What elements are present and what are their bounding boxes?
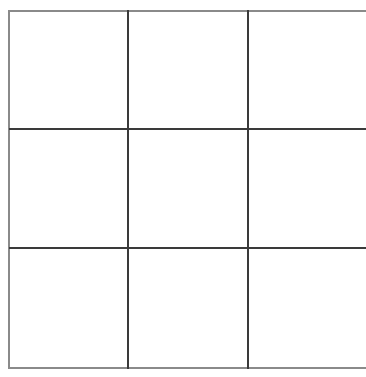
- cell-r0-c0[interactable]: [10, 12, 127, 128]
- cell-r2-c1[interactable]: [129, 249, 247, 367]
- cell-r2-c2[interactable]: [249, 249, 366, 367]
- board-bottom-border: [9, 367, 366, 369]
- cell-r0-c2[interactable]: [249, 12, 366, 128]
- tic-tac-toe-board: [0, 0, 366, 377]
- cell-r0-c1[interactable]: [129, 12, 247, 128]
- cell-r2-c0[interactable]: [10, 249, 127, 367]
- cell-r1-c0[interactable]: [10, 130, 127, 247]
- cell-r1-c1[interactable]: [129, 130, 247, 247]
- cell-r1-c2[interactable]: [249, 130, 366, 247]
